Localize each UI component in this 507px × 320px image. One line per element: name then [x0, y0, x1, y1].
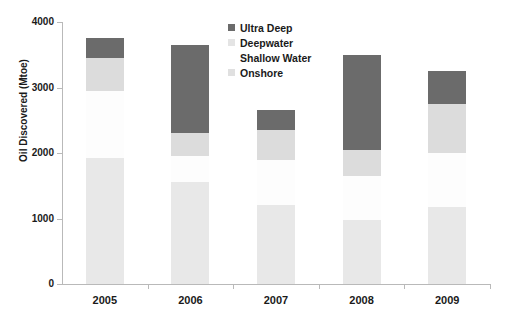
y-tick-mark-4000 — [57, 22, 62, 23]
x-tick-label-2008: 2008 — [322, 294, 402, 306]
x-tick-label-2005: 2005 — [65, 294, 145, 306]
legend-item-shallow-water: Shallow Water — [228, 50, 311, 65]
bar-2009[interactable] — [428, 22, 466, 284]
bar-segment-2008-deepwater[interactable] — [343, 150, 381, 176]
legend-swatch-icon-deepwater — [228, 39, 235, 46]
legend-label-onshore: Onshore — [240, 67, 283, 79]
chart-legend: Ultra Deep Deepwater Shallow Water Onsho… — [228, 20, 311, 80]
legend-swatch-icon-shallow-water — [228, 54, 235, 61]
bar-segment-2008-shallow-water[interactable] — [343, 176, 381, 220]
legend-item-ultra-deep: Ultra Deep — [228, 20, 311, 35]
bar-segment-2007-ultra-deep[interactable] — [257, 110, 295, 130]
y-axis-title: Oil Discovered (Mtoe) — [18, 16, 29, 206]
x-tick-mark-2007 — [319, 284, 320, 289]
bar-segment-2008-ultra-deep[interactable] — [343, 55, 381, 150]
bar-segment-2009-onshore[interactable] — [428, 207, 466, 284]
bar-segment-2007-onshore[interactable] — [257, 205, 295, 284]
legend-label-deepwater: Deepwater — [240, 37, 293, 49]
bar-segment-2006-onshore[interactable] — [171, 182, 209, 284]
x-tick-mark-2005 — [148, 284, 149, 289]
legend-label-ultra-deep: Ultra Deep — [240, 22, 293, 34]
bar-segment-2005-ultra-deep[interactable] — [86, 38, 124, 58]
y-tick-label-0: 0 — [10, 279, 54, 289]
bar-segment-2008-onshore[interactable] — [343, 220, 381, 284]
y-tick-mark-3000 — [57, 88, 62, 89]
legend-item-deepwater: Deepwater — [228, 35, 311, 50]
bar-segment-2006-deepwater[interactable] — [171, 133, 209, 156]
x-tick-label-2006: 2006 — [150, 294, 230, 306]
bar-segment-2005-shallow-water[interactable] — [86, 91, 124, 158]
bar-segment-2009-deepwater[interactable] — [428, 104, 466, 153]
y-tick-mark-2000 — [57, 153, 62, 154]
y-tick-mark-0 — [57, 284, 62, 285]
bar-segment-2009-shallow-water[interactable] — [428, 153, 466, 207]
y-tick-label-3000: 3000 — [10, 83, 54, 93]
bar-2008[interactable] — [343, 22, 381, 284]
y-tick-label-4000: 4000 — [10, 17, 54, 27]
bar-2005[interactable] — [86, 22, 124, 284]
bar-segment-2005-deepwater[interactable] — [86, 58, 124, 91]
legend-swatch-icon-ultra-deep — [228, 24, 235, 31]
x-tick-label-2007: 2007 — [236, 294, 316, 306]
bar-segment-2006-ultra-deep[interactable] — [171, 45, 209, 133]
legend-label-shallow-water: Shallow Water — [240, 52, 311, 64]
y-tick-mark-1000 — [57, 219, 62, 220]
bar-segment-2009-ultra-deep[interactable] — [428, 71, 466, 104]
bar-2006[interactable] — [171, 22, 209, 284]
bar-segment-2006-shallow-water[interactable] — [171, 156, 209, 182]
y-tick-label-1000: 1000 — [10, 214, 54, 224]
oil-discovery-stacked-bar-chart: Oil Discovered (Mtoe) 01000200030004000 … — [0, 0, 507, 320]
x-tick-mark-2008 — [404, 284, 405, 289]
legend-item-onshore: Onshore — [228, 65, 311, 80]
y-axis-line — [62, 22, 63, 284]
bar-segment-2005-onshore[interactable] — [86, 158, 124, 284]
x-axis-line — [62, 284, 490, 285]
bar-segment-2007-deepwater[interactable] — [257, 130, 295, 159]
y-tick-label-2000: 2000 — [10, 148, 54, 158]
bar-segment-2007-shallow-water[interactable] — [257, 160, 295, 206]
x-tick-mark-2009 — [490, 284, 491, 289]
x-tick-label-2009: 2009 — [407, 294, 487, 306]
legend-swatch-icon-onshore — [228, 69, 235, 76]
x-tick-mark-2006 — [233, 284, 234, 289]
